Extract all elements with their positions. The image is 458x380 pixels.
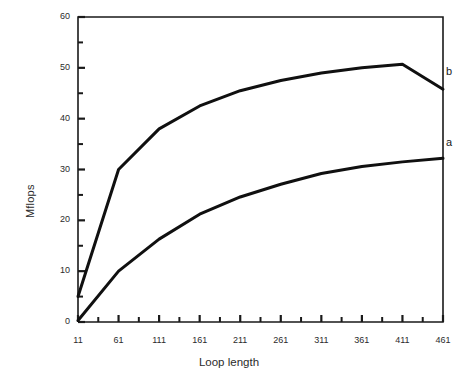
y-tick-label: 20 — [44, 214, 70, 224]
y-axis-title-wrap: Mflops — [2, 130, 32, 220]
x-tick-label: 411 — [385, 335, 419, 345]
x-tick-label: 61 — [102, 335, 136, 345]
x-axis-title: Loop length — [0, 356, 458, 368]
plot-frame — [78, 17, 443, 322]
x-tick-label: 361 — [345, 335, 379, 345]
x-tick-label: 311 — [304, 335, 338, 345]
series-label-b: b — [446, 65, 452, 77]
y-tick-label: 60 — [44, 11, 70, 21]
frame-box — [78, 17, 443, 322]
series-line-a — [78, 158, 443, 320]
y-tick-label: 0 — [44, 316, 70, 326]
x-tick-label: 161 — [183, 335, 217, 345]
data-series-lines — [78, 64, 443, 320]
y-tick-label: 30 — [44, 164, 70, 174]
y-tick-label: 50 — [44, 62, 70, 72]
y-axis-title: Mflops — [24, 184, 36, 218]
x-tick-label: 461 — [426, 335, 458, 345]
series-label-a: a — [446, 136, 452, 148]
y-tick-label: 40 — [44, 113, 70, 123]
chart-figure: Mflops Loop length 0102030405060 1161111… — [0, 0, 458, 380]
x-tick-label: 111 — [142, 335, 176, 345]
x-tick-label: 261 — [264, 335, 298, 345]
x-tick-label: 211 — [223, 335, 257, 345]
x-tick-label: 11 — [61, 335, 95, 345]
y-tick-label: 10 — [44, 265, 70, 275]
